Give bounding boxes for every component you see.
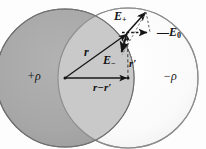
label-positive-charge-density: +ρ [27, 70, 41, 82]
sphere-center-dot [127, 77, 130, 80]
label-negative-charge-density: −ρ [163, 70, 177, 82]
origin-dot [64, 77, 67, 80]
label-r-minus-r-prime: r−r′ [93, 82, 111, 93]
label-minus-e-zero: —E0 [157, 26, 181, 40]
physics-figure: E+ —E0 E− r r′ r−r′ +ρ −ρ [0, 0, 206, 149]
label-r-prime: r′ [129, 58, 136, 69]
label-e-plus: E+ [114, 10, 127, 24]
label-r: r [84, 46, 89, 58]
label-e-minus: E− [103, 54, 116, 68]
